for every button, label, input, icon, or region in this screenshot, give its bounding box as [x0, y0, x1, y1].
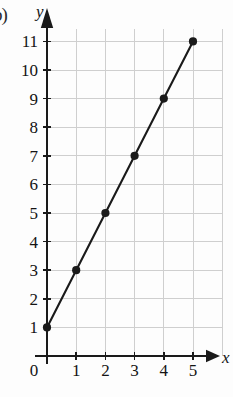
y-tick-label-8: 8	[30, 119, 39, 136]
y-tick-label-6: 6	[30, 176, 39, 193]
y-tick-label-3: 3	[30, 262, 39, 279]
y-tick-label-1: 1	[30, 319, 39, 336]
x-axis-label: x	[222, 348, 230, 368]
gridlines-group	[47, 29, 223, 356]
y-tick-label-2: 2	[30, 290, 39, 307]
tick-marks-group	[43, 41, 193, 360]
x-tick-label-1: 1	[72, 362, 81, 379]
figure-panel: b) 1234567891011012345 y x	[0, 0, 233, 397]
x-tick-label-5: 5	[189, 362, 198, 379]
x-tick-label-4: 4	[160, 362, 169, 379]
axes-group	[35, 8, 220, 364]
y-tick-label-5: 5	[30, 205, 39, 222]
y-tick-label-4: 4	[30, 233, 39, 250]
y-axis-label: y	[36, 2, 44, 22]
x-tick-label-2: 2	[101, 362, 110, 379]
x-tick-label-0: 0	[30, 362, 39, 379]
y-tick-label-11: 11	[22, 33, 38, 50]
y-tick-label-10: 10	[21, 62, 38, 79]
y-tick-label-9: 9	[30, 90, 39, 107]
y-tick-label-7: 7	[30, 147, 39, 164]
x-tick-label-3: 3	[130, 362, 139, 379]
